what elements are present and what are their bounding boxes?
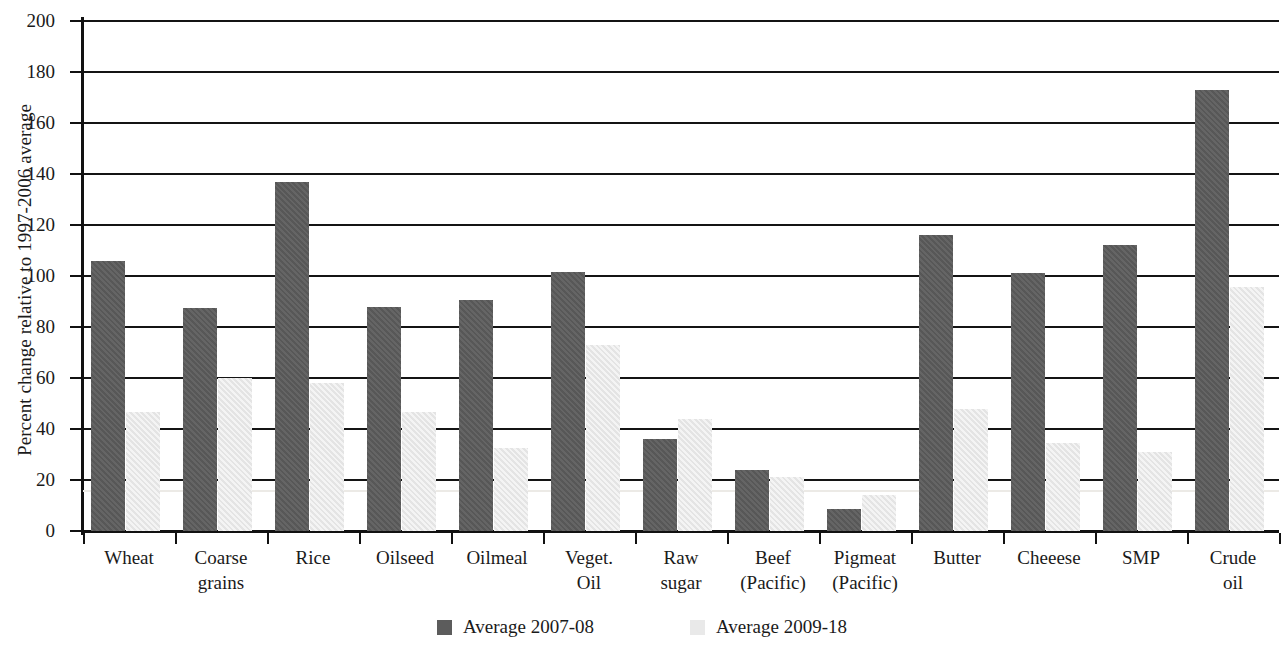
x-axis-label: Wheat: [83, 545, 175, 570]
bar-average-2007-08: [275, 182, 309, 531]
x-axis-label: Cheeese: [1003, 545, 1095, 570]
x-axis-label-line1: Cheeese: [1017, 547, 1080, 568]
x-tick-mark: [267, 533, 269, 544]
x-axis-label-line1: Raw: [664, 547, 699, 568]
x-axis-label: Butter: [911, 545, 1003, 570]
x-axis-label-line1: Coarse: [195, 547, 248, 568]
bar-average-2009-18: [770, 477, 804, 531]
x-axis-label-line1: Wheat: [104, 547, 154, 568]
x-axis-label: Oilmeal: [451, 545, 543, 570]
bar-average-2007-08: [1011, 273, 1045, 531]
y-tick-mark: [70, 479, 84, 481]
bar-average-2009-18: [862, 495, 896, 531]
gridline: [83, 377, 1279, 379]
y-tick-mark: [70, 377, 84, 379]
gridline: [83, 173, 1279, 175]
bar-average-2007-08: [643, 439, 677, 531]
bar-average-2007-08: [459, 300, 493, 531]
x-axis-label: Rawsugar: [635, 545, 727, 595]
legend-label: Average 2007-08: [463, 616, 594, 638]
x-axis-label: SMP: [1095, 545, 1187, 570]
x-axis-label-line1: Oilseed: [376, 547, 434, 568]
y-tick-mark: [70, 530, 84, 532]
gridline: [83, 71, 1279, 73]
legend-swatch-light: [690, 620, 705, 635]
x-tick-mark: [819, 533, 821, 544]
bar-average-2007-08: [367, 307, 401, 531]
x-tick-mark: [911, 533, 913, 544]
bar-average-2009-18: [1046, 443, 1080, 531]
bar-average-2007-08: [919, 235, 953, 531]
y-tick-mark: [70, 224, 84, 226]
gridline: [83, 224, 1279, 226]
x-axis-label: Rice: [267, 545, 359, 570]
bar-average-2007-08: [1195, 90, 1229, 531]
x-axis-label-line1: Crude: [1210, 547, 1256, 568]
y-tick-mark: [70, 173, 84, 175]
y-tick-mark: [70, 71, 84, 73]
x-axis-label: Crudeoil: [1187, 545, 1279, 595]
bar-average-2007-08: [827, 509, 861, 531]
bar-average-2007-08: [551, 272, 585, 531]
bar-average-2009-18: [126, 412, 160, 531]
plot-area: 020406080100120140160180200: [83, 21, 1279, 531]
x-tick-mark: [1187, 533, 1189, 544]
bar-average-2009-18: [678, 419, 712, 531]
y-tick-label: 100: [9, 266, 55, 285]
bar-average-2007-08: [91, 261, 125, 531]
x-axis-label-line1: SMP: [1122, 547, 1160, 568]
x-axis-label-line1: Oilmeal: [466, 547, 527, 568]
x-axis-label-line1: Beef: [755, 547, 791, 568]
legend-label: Average 2009-18: [716, 616, 847, 638]
gridline: [83, 20, 1279, 22]
y-tick-mark: [70, 20, 84, 22]
bar-average-2007-08: [1103, 245, 1137, 531]
x-tick-mark: [635, 533, 637, 544]
x-tick-mark: [359, 533, 361, 544]
bar-chart-figure: Percent change relative to 1997-2006 ave…: [0, 0, 1284, 650]
legend-swatch-dark: [437, 620, 452, 635]
x-axis-label-line1: Veget.: [565, 547, 613, 568]
y-tick-label: 160: [9, 113, 55, 132]
bar-average-2007-08: [735, 470, 769, 531]
legend-entry: Average 2009-18: [690, 616, 847, 638]
x-axis-label: Coarsegrains: [175, 545, 267, 595]
bar-average-2009-18: [494, 448, 528, 531]
y-tick-label: 140: [9, 164, 55, 183]
bar-average-2009-18: [954, 409, 988, 531]
x-tick-mark: [727, 533, 729, 544]
bar-average-2009-18: [586, 345, 620, 531]
legend-entry: Average 2007-08: [437, 616, 594, 638]
bar-average-2009-18: [402, 412, 436, 531]
bar-average-2009-18: [218, 378, 252, 531]
x-axis-label-line1: Rice: [296, 547, 331, 568]
bar-average-2009-18: [1230, 287, 1264, 531]
y-tick-label: 180: [9, 62, 55, 81]
y-tick-mark: [70, 428, 84, 430]
x-axis-label-line2: grains: [175, 570, 267, 595]
y-tick-mark: [70, 122, 84, 124]
bar-average-2007-08: [183, 308, 217, 531]
x-tick-mark: [1003, 533, 1005, 544]
y-tick-mark: [70, 326, 84, 328]
y-tick-label: 40: [9, 419, 55, 438]
y-tick-label: 20: [9, 470, 55, 489]
x-tick-mark: [1279, 533, 1281, 544]
x-tick-mark: [83, 533, 85, 544]
x-axis-label-line2: Oil: [543, 570, 635, 595]
x-axis-label: Pigmeat(Pacific): [819, 545, 911, 595]
y-tick-label: 120: [9, 215, 55, 234]
x-tick-mark: [543, 533, 545, 544]
x-tick-mark: [175, 533, 177, 544]
x-tick-mark: [1095, 533, 1097, 544]
y-tick-label: 200: [9, 11, 55, 30]
y-tick-mark: [70, 275, 84, 277]
y-tick-label: 60: [9, 368, 55, 387]
x-axis-label-line1: Butter: [933, 547, 981, 568]
gridline: [83, 326, 1279, 328]
x-axis-label: Veget.Oil: [543, 545, 635, 595]
y-tick-label: 0: [9, 521, 55, 540]
bar-average-2009-18: [1138, 452, 1172, 531]
x-axis-label-line1: Pigmeat: [834, 547, 896, 568]
x-axis-label-line2: (Pacific): [819, 570, 911, 595]
